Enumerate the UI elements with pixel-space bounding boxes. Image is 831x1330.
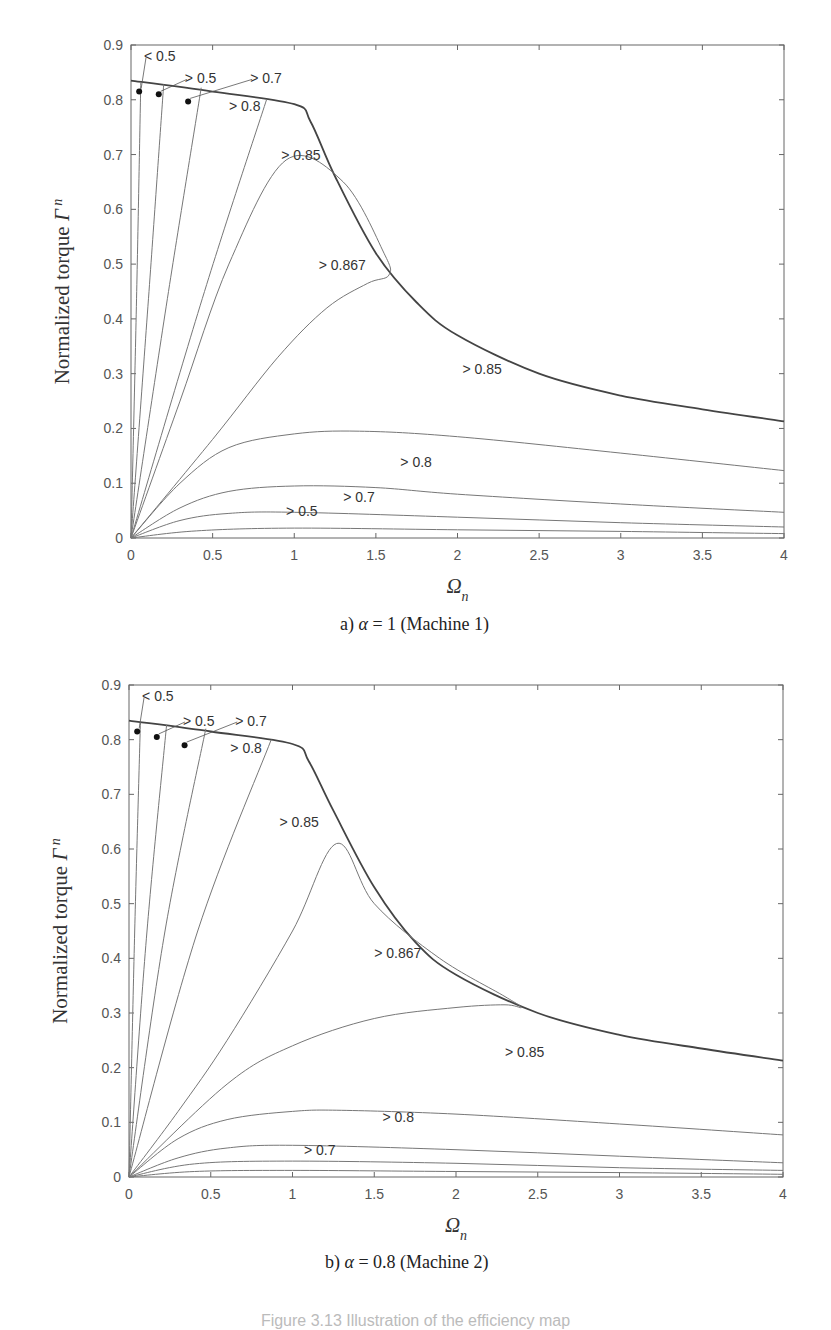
marker-dot	[154, 734, 160, 740]
y-tick-label: 0.2	[102, 1060, 122, 1076]
x-tick-label: 3.5	[692, 1186, 712, 1202]
x-tick-label: 0.5	[201, 1186, 221, 1202]
x-tick-label: 2	[452, 1186, 460, 1202]
series-line	[129, 843, 521, 1177]
figure-caption: Figure 3.13 Illustration of the efficien…	[0, 1312, 831, 1330]
y-tick-label: 0.7	[102, 786, 122, 802]
y-tick-label: 0.1	[102, 1114, 122, 1130]
region-label: > 0.85	[279, 814, 319, 830]
caption-b-symbol: α	[345, 1252, 354, 1272]
y-tick-label: 0.3	[102, 1005, 122, 1021]
y-tick-label: 0.5	[102, 896, 122, 912]
x-tick-label: 4	[779, 1186, 787, 1202]
series-line	[129, 721, 783, 1061]
region-label: < 0.5	[142, 688, 174, 704]
y-tick-label: 0.6	[102, 841, 122, 857]
marker-dot	[134, 728, 140, 734]
y-tick-label: 0.4	[102, 950, 122, 966]
y-tick-label: 0.8	[102, 732, 122, 748]
region-label: > 0.7	[235, 713, 267, 729]
chart-b-plot: 00.511.522.533.5400.10.20.30.40.50.60.70…	[48, 677, 788, 1243]
region-label: > 0.7	[304, 1142, 336, 1158]
series-line	[129, 1110, 783, 1177]
region-label: > 0.5	[183, 713, 215, 729]
x-tick-label: 0	[125, 1186, 133, 1202]
x-tick-label: 2.5	[528, 1186, 548, 1202]
x-tick-label: 1.5	[365, 1186, 385, 1202]
caption-b: b) α = 0.8 (Machine 2)	[325, 1252, 489, 1273]
marker-dot	[182, 742, 188, 748]
series-line	[129, 729, 206, 1177]
x-tick-label: 3	[616, 1186, 624, 1202]
caption-b-prefix: b)	[325, 1252, 345, 1272]
region-label: > 0.8	[230, 740, 262, 756]
axes-frame	[129, 685, 783, 1177]
x-axis-title: Ωn	[445, 1213, 467, 1243]
region-label: > 0.867	[374, 945, 421, 961]
y-axis-title: Normalized torque Γ n	[48, 838, 73, 1024]
x-tick-label: 1	[289, 1186, 297, 1202]
y-tick-label: 0	[113, 1169, 121, 1185]
region-label: > 0.8	[382, 1109, 414, 1125]
region-label: > 0.85	[505, 1044, 545, 1060]
series-line	[129, 740, 271, 1177]
y-tick-label: 0.9	[102, 677, 122, 693]
caption-b-text: = 0.8 (Machine 2)	[354, 1252, 489, 1272]
